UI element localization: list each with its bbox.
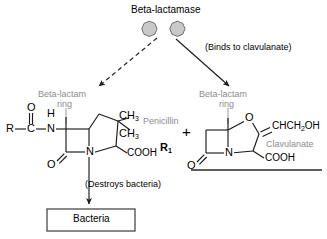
- clavulanate-ring-label-line1: Beta-lactam: [199, 90, 247, 99]
- penicillin-ring-label-line1: Beta-lactam: [38, 90, 86, 99]
- bond-carboxyl: [116, 146, 127, 153]
- atom-carbonyl-o: O: [27, 102, 36, 113]
- penicillin-name-label: Penicillin: [143, 117, 179, 126]
- atom-carboxyl-penicillin: COOH: [127, 148, 157, 158]
- page-title: Beta-lactamase: [131, 5, 200, 15]
- atom-clav-carboxyl: COOH: [265, 153, 295, 163]
- atom-methyl-1: CH3: [119, 110, 139, 122]
- bond-thia-4: [92, 146, 116, 153]
- enzyme-octagon-left: [142, 21, 157, 36]
- atom-r-group: R: [6, 123, 14, 134]
- enzyme-octagon-right: [170, 21, 185, 36]
- bond-thia-3: [116, 121, 118, 146]
- clav-bond-carboxyl: [253, 151, 264, 158]
- atom-clav-ring-o: O: [244, 112, 255, 123]
- penicillin-structure: [15, 113, 130, 164]
- arrow-to-penicillin: [99, 38, 157, 86]
- clav-bond-ring-1: [228, 121, 245, 130]
- penicillin-ring-label-line2: ring: [57, 100, 72, 109]
- atom-lactam-o: O: [47, 159, 56, 170]
- clav-bond-exo-a: [261, 128, 271, 133]
- atom-clav-side-chain: CHCH2OH: [272, 121, 320, 132]
- atom-amide-h: H: [47, 108, 55, 119]
- bacteria-box-label: Bacteria: [73, 214, 110, 224]
- clavulanate-structure: [197, 118, 272, 164]
- annotation-binds-to-clavulanate: (Binds to clavulanate): [205, 43, 292, 52]
- clav-bond-ring-3: [253, 134, 259, 151]
- clav-bond-ring-4: [231, 151, 253, 153]
- diagram-canvas: Beta-lactamase (Binds to clavulanate) (D…: [0, 0, 327, 239]
- clavulanate-ring-label-line2: ring: [219, 100, 234, 109]
- label-r1: R1: [160, 142, 172, 154]
- bond-thia-1: [89, 114, 99, 129]
- atom-methyl-2: CH3: [119, 128, 139, 140]
- atom-amide-n: N: [47, 123, 55, 134]
- clav-bond-ring-2: [252, 122, 259, 134]
- annotation-destroys-bacteria: (Destroys bacteria): [85, 180, 161, 189]
- clavulanate-name-label: Clavulanate: [266, 140, 314, 149]
- atom-ring-n: N: [85, 146, 95, 157]
- atom-clav-ring-n: N: [224, 147, 234, 158]
- atom-clav-lactam-o: O: [187, 160, 196, 171]
- plus-sign: +: [182, 124, 191, 139]
- atom-carbonyl-c: C: [27, 123, 35, 134]
- bond-thia-2: [99, 114, 118, 121]
- clav-bond-exo-b: [263, 132, 273, 137]
- enzyme-icon-group: [142, 21, 185, 36]
